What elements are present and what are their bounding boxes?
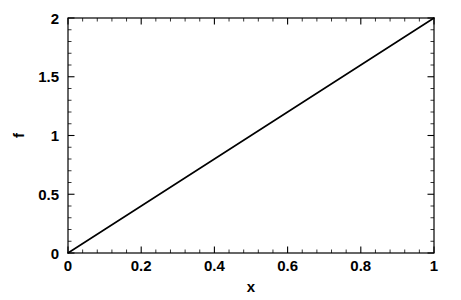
line-chart: 0 0.2 0.4 0.6 0.8 1 0 0.5 1 1.5 2 x f [0, 0, 461, 300]
x-tick-label-2: 0.4 [204, 257, 226, 274]
y-tick-label-4: 2 [51, 10, 59, 27]
x-tick-label-3: 0.6 [277, 257, 298, 274]
x-tick-label-1: 0.2 [131, 257, 152, 274]
figure-canvas: 0 0.2 0.4 0.6 0.8 1 0 0.5 1 1.5 2 x f [0, 0, 461, 300]
y-tick-label-2: 1 [51, 127, 59, 144]
x-tick-label-0: 0 [64, 257, 72, 274]
y-tick-label-3: 1.5 [38, 68, 59, 85]
x-tick-label-4: 0.8 [350, 257, 371, 274]
y-tick-label-1: 0.5 [38, 186, 59, 203]
x-tick-label-5: 1 [430, 257, 438, 274]
x-axis-title: x [247, 278, 256, 295]
y-tick-label-0: 0 [51, 245, 59, 262]
